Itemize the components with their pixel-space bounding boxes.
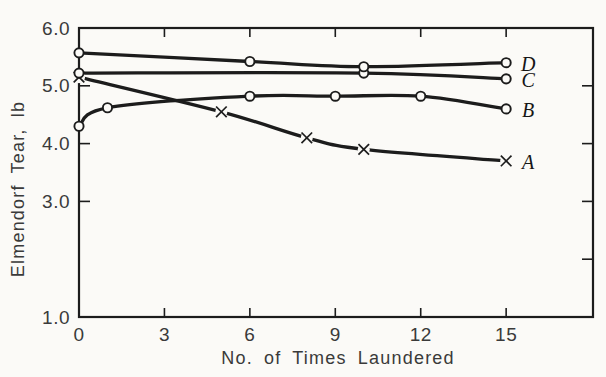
x-tick-label: 6 <box>244 324 255 345</box>
series-C-circle-marker <box>502 74 511 83</box>
y-tick-label: 3.0 <box>42 191 70 212</box>
series-A-label: A <box>520 151 535 173</box>
chart-canvas: 036912156.05.04.03.01.0DCBA No. of Times… <box>0 0 606 377</box>
series-D-circle-marker <box>359 62 368 71</box>
x-axis-title: No. of Times Laundered <box>221 348 455 368</box>
series-B-label: B <box>522 99 534 121</box>
x-tick-label: 0 <box>73 324 84 345</box>
elmendorf-tear-figure: 036912156.05.04.03.01.0DCBA No. of Times… <box>0 0 606 377</box>
series-B-circle-marker <box>103 103 112 112</box>
series-B-circle-marker <box>502 104 511 113</box>
paper-background <box>0 0 606 377</box>
x-tick-label: 9 <box>330 324 341 345</box>
x-tick-label: 3 <box>159 324 170 345</box>
x-tick-label: 15 <box>495 324 517 345</box>
series-B-circle-marker <box>331 92 340 101</box>
x-tick-label: 12 <box>410 324 432 345</box>
y-tick-label: 4.0 <box>42 133 70 154</box>
series-B-circle-marker <box>74 122 83 131</box>
y-tick-label: 6.0 <box>42 18 70 39</box>
y-axis-title: Elmendorf Tear, lb <box>8 101 28 277</box>
series-B-circle-marker <box>416 92 425 101</box>
series-C-label: C <box>521 69 535 91</box>
series-D-circle-marker <box>502 58 511 67</box>
series-B-circle-marker <box>245 92 254 101</box>
series-D-circle-marker <box>74 48 83 57</box>
y-tick-label: 5.0 <box>42 75 70 96</box>
series-D-circle-marker <box>245 57 254 66</box>
y-tick-label: 1.0 <box>42 307 70 328</box>
series-C-circle-marker <box>74 68 83 77</box>
